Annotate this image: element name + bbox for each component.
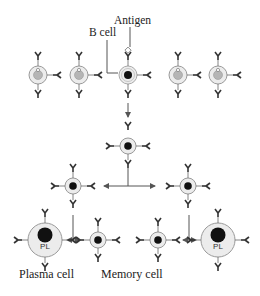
antigen-receptor-tip — [216, 68, 219, 71]
pl-label: PL — [213, 242, 223, 251]
antibody-icon — [42, 209, 48, 217]
pl-label: PL — [40, 242, 50, 251]
b-cell-pointer-line — [107, 40, 118, 73]
antibody-icon — [125, 160, 131, 168]
antibody-icon — [185, 164, 191, 172]
antibody-icon — [112, 237, 120, 243]
antigen-receptor-tip — [77, 68, 80, 71]
antibody-icon — [53, 72, 61, 78]
antibody-icon — [233, 72, 241, 78]
antibody-icon — [35, 52, 41, 60]
antibody-icon — [35, 90, 41, 98]
antibody-icon — [215, 209, 221, 217]
antigen-receptor-tip — [36, 68, 39, 71]
antibody-icon — [136, 237, 144, 243]
cell-nucleus — [38, 227, 53, 242]
cell-nucleus — [124, 71, 132, 79]
cell-nucleus — [69, 182, 77, 190]
memory-cell — [136, 218, 180, 262]
memory-cell-label: Memory cell — [101, 268, 163, 280]
b-cell-clonal-selection-diagram: PLPL Antigen B cell Plasma cell Memory c… — [0, 0, 260, 296]
connector-lines — [67, 27, 196, 240]
antibody-icon — [241, 237, 249, 243]
antibody-icon — [215, 263, 221, 271]
cell-nucleus — [154, 236, 162, 244]
antibody-icon — [70, 164, 76, 172]
antibody-icon — [155, 218, 161, 226]
plasma-cell: PL — [14, 209, 76, 271]
plasma-cell: PL — [187, 209, 249, 271]
antibody-icon — [142, 143, 150, 149]
naive-b-cell — [169, 52, 201, 98]
antibody-icon — [193, 72, 201, 78]
proliferating-b-cell — [51, 164, 95, 208]
antibody-icon — [155, 254, 161, 262]
naive-b-cell — [29, 52, 61, 98]
antibody-icon — [51, 183, 59, 189]
antibody-icon — [185, 200, 191, 208]
cell-nucleus — [94, 236, 102, 244]
naive-b-cell — [209, 52, 241, 98]
b-cell-label: B cell — [89, 27, 116, 39]
antibody-icon — [94, 72, 102, 78]
diagram-canvas: PLPL — [0, 0, 260, 296]
antibody-icon — [125, 122, 131, 130]
antibody-icon — [202, 183, 210, 189]
antibody-icon — [76, 52, 82, 60]
antibody-icon — [175, 52, 181, 60]
plasma-cell-label: Plasma cell — [19, 268, 74, 280]
antibody-icon — [125, 90, 131, 98]
antibody-icon — [76, 90, 82, 98]
antibody-icon — [95, 254, 101, 262]
antibody-icon — [166, 183, 174, 189]
activated-b-cell — [119, 47, 151, 98]
antibody-icon — [95, 218, 101, 226]
antigen-label: Antigen — [114, 15, 151, 27]
antibody-icon — [172, 237, 180, 243]
antibody-icon — [215, 52, 221, 60]
antibody-icon — [14, 237, 22, 243]
antibody-icon — [175, 90, 181, 98]
memory-cell — [76, 218, 120, 262]
cell-nucleus — [124, 142, 132, 150]
antibody-icon — [143, 72, 151, 78]
antibody-icon — [215, 90, 221, 98]
antibody-icon — [87, 183, 95, 189]
cell-nucleus — [184, 182, 192, 190]
proliferating-b-cell — [166, 164, 210, 208]
antibody-icon — [106, 143, 114, 149]
proliferating-b-cell — [106, 138, 150, 168]
cell-nucleus — [211, 227, 226, 242]
naive-b-cell — [70, 52, 102, 98]
antibody-icon — [70, 200, 76, 208]
antigen-receptor-tip — [176, 68, 179, 71]
